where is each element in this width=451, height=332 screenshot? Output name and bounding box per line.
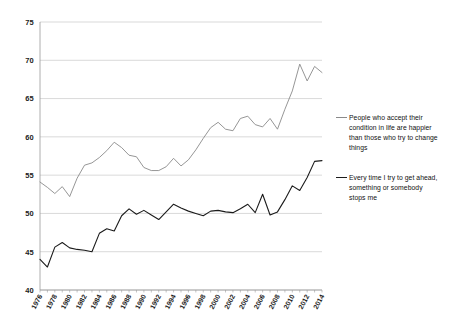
x-axis-tick-label: 1980 xyxy=(60,293,74,310)
x-axis-tick-label: 1978 xyxy=(45,293,59,310)
legend-label-stops: Every time I try to get ahead, something… xyxy=(336,173,440,203)
y-axis-tick-label: 40 xyxy=(25,286,34,295)
x-axis-tick-label: 1976 xyxy=(30,293,44,310)
series-line-stops xyxy=(40,161,322,267)
x-axis-tick-label: 2000 xyxy=(208,293,222,310)
x-axis-tick-label: 2008 xyxy=(267,293,281,310)
x-axis-tick-label: 1986 xyxy=(104,293,118,310)
y-axis-tick-label: 60 xyxy=(25,133,34,142)
x-axis-tick-label: 2006 xyxy=(253,293,267,310)
x-axis-tick-label: 2010 xyxy=(282,293,296,310)
legend-label-accept: People who accept their condition in lif… xyxy=(336,113,440,153)
x-axis-tick-label: 1982 xyxy=(74,293,88,310)
chart-plot-area: 4045505560657075197619781980198219841986… xyxy=(0,0,451,332)
x-axis-tick-label: 2002 xyxy=(223,293,237,310)
x-axis-tick-label: 1998 xyxy=(193,293,207,310)
x-axis-tick-label: 2014 xyxy=(312,293,326,310)
x-axis-tick-label: 1994 xyxy=(163,293,177,310)
legend-swatch-stops xyxy=(336,177,347,178)
y-axis-tick-label: 75 xyxy=(25,18,34,27)
x-axis-tick-label: 1988 xyxy=(119,293,133,310)
y-axis-tick-label: 55 xyxy=(25,171,34,180)
series-line-accept xyxy=(40,64,322,196)
y-axis-tick-label: 70 xyxy=(25,56,34,65)
x-axis-tick-label: 1996 xyxy=(178,293,192,310)
x-axis-tick-label: 1984 xyxy=(89,293,103,310)
y-axis-tick-label: 50 xyxy=(25,209,34,218)
x-axis-tick-label: 2004 xyxy=(238,293,252,310)
legend-item-stops[interactable]: Every time I try to get ahead, something… xyxy=(336,173,440,203)
y-axis-tick-label: 65 xyxy=(25,94,34,103)
line-chart: 4045505560657075197619781980198219841986… xyxy=(0,0,451,332)
legend-item-accept[interactable]: People who accept their condition in lif… xyxy=(336,113,440,153)
y-axis-tick-label: 45 xyxy=(25,248,34,257)
legend-swatch-accept xyxy=(336,117,347,118)
x-axis-tick-label: 2012 xyxy=(297,293,311,310)
x-axis-tick-label: 1992 xyxy=(149,293,163,310)
x-axis-tick-label: 1990 xyxy=(134,293,148,310)
